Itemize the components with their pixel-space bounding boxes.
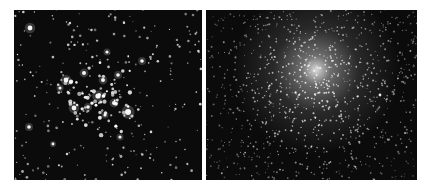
open-cluster-image [14, 10, 202, 180]
globular-cluster-stars [206, 10, 417, 180]
open-cluster-stars [14, 10, 202, 180]
globular-cluster-image [206, 10, 417, 180]
